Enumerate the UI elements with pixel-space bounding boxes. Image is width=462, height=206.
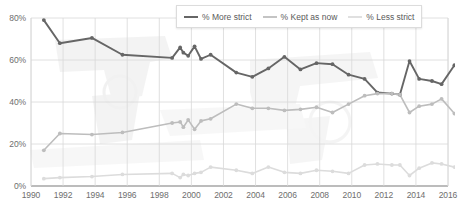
- y-tick-label: 80%: [0, 13, 26, 23]
- y-tick-label: 20%: [0, 139, 26, 149]
- data-point-marker: [266, 106, 270, 110]
- data-point-marker: [331, 169, 335, 173]
- data-point-marker: [234, 71, 238, 75]
- legend-swatch-kept-as-now: [263, 16, 277, 18]
- data-point-marker: [299, 107, 303, 111]
- y-tick-label: 40%: [0, 97, 26, 107]
- data-point-marker: [430, 102, 434, 106]
- data-point-marker: [186, 118, 190, 122]
- data-point-marker: [283, 55, 287, 59]
- data-point-marker: [347, 73, 351, 77]
- data-point-marker: [363, 77, 367, 81]
- data-point-marker: [234, 168, 238, 172]
- data-point-marker: [266, 67, 270, 71]
- data-point-marker: [199, 57, 203, 61]
- data-point-marker: [417, 104, 421, 108]
- legend-swatch-less-strict: [348, 16, 362, 18]
- data-point-marker: [315, 61, 319, 65]
- data-point-marker: [250, 75, 254, 79]
- data-point-marker: [90, 175, 94, 179]
- data-point-marker: [186, 54, 190, 58]
- data-point-marker: [363, 163, 367, 167]
- x-tick-label: 2016: [432, 190, 462, 200]
- x-tick-label: 2000: [175, 190, 207, 200]
- data-point-marker: [209, 53, 213, 57]
- data-point-marker: [181, 125, 185, 129]
- data-point-marker: [209, 117, 213, 121]
- x-tick-label: 2010: [336, 190, 368, 200]
- data-point-marker: [363, 94, 367, 98]
- y-tick-label: 60%: [0, 55, 26, 65]
- x-tick-label: 2012: [368, 190, 400, 200]
- data-point-marker: [430, 161, 434, 165]
- data-point-marker: [417, 77, 421, 81]
- data-point-marker: [299, 68, 303, 72]
- data-point-marker: [181, 51, 185, 55]
- data-point-marker: [58, 132, 62, 136]
- data-point-marker: [42, 177, 46, 181]
- data-point-marker: [186, 174, 190, 178]
- data-point-marker: [331, 111, 335, 115]
- legend-item-more-strict[interactable]: % More strict: [184, 12, 252, 22]
- x-tick-label: 2014: [400, 190, 432, 200]
- x-tick-label: 1994: [79, 190, 111, 200]
- data-point-marker: [193, 172, 197, 176]
- data-point-marker: [178, 176, 182, 180]
- data-point-marker: [58, 41, 62, 45]
- x-tick-label: 2006: [272, 190, 304, 200]
- data-point-marker: [42, 18, 46, 22]
- data-point-marker: [193, 44, 197, 48]
- series-line: [44, 20, 455, 95]
- data-point-marker: [390, 92, 394, 96]
- x-tick-label: 2008: [304, 190, 336, 200]
- data-point-marker: [331, 62, 335, 66]
- data-point-marker: [266, 165, 270, 169]
- x-tick-label: 1996: [111, 190, 143, 200]
- data-point-marker: [453, 165, 455, 169]
- data-point-marker: [347, 102, 351, 106]
- legend-label-more-strict: % More strict: [202, 12, 252, 22]
- legend-item-less-strict[interactable]: % Less strict: [348, 12, 414, 22]
- data-point-marker: [170, 56, 174, 60]
- data-point-marker: [199, 119, 203, 123]
- x-tick-label: 2002: [207, 190, 239, 200]
- legend-swatch-more-strict: [184, 16, 198, 18]
- data-point-marker: [408, 111, 412, 115]
- data-point-marker: [121, 53, 125, 57]
- data-point-marker: [178, 46, 182, 50]
- data-point-marker: [181, 173, 185, 177]
- x-tick-label: 1992: [47, 190, 79, 200]
- data-point-marker: [440, 97, 444, 101]
- data-point-marker: [440, 162, 444, 166]
- legend-item-kept-as-now[interactable]: % Kept as now: [263, 12, 338, 22]
- chart-legend: % More strict % Kept as now % Less stric…: [176, 5, 422, 28]
- data-point-marker: [199, 170, 203, 174]
- data-point-marker: [347, 172, 351, 176]
- data-point-marker: [90, 36, 94, 40]
- data-point-marker: [283, 109, 287, 113]
- data-point-marker: [170, 172, 174, 176]
- data-point-marker: [376, 92, 380, 96]
- data-point-marker: [430, 79, 434, 83]
- data-point-marker: [299, 172, 303, 176]
- data-point-marker: [121, 173, 125, 177]
- data-point-marker: [440, 82, 444, 86]
- legend-label-less-strict: % Less strict: [366, 12, 414, 22]
- data-point-marker: [209, 165, 213, 169]
- legend-label-kept-as-now: % Kept as now: [281, 12, 338, 22]
- data-point-marker: [250, 172, 254, 176]
- data-point-marker: [315, 168, 319, 172]
- data-point-marker: [390, 163, 394, 167]
- data-point-marker: [376, 162, 380, 166]
- data-point-marker: [170, 121, 174, 125]
- x-tick-label: 1990: [15, 190, 47, 200]
- y-tick-label: 0%: [0, 181, 26, 191]
- data-point-marker: [178, 120, 182, 124]
- data-point-marker: [193, 127, 197, 131]
- data-point-marker: [283, 170, 287, 174]
- data-point-marker: [315, 105, 319, 109]
- data-point-marker: [398, 163, 402, 167]
- data-point-marker: [398, 93, 402, 97]
